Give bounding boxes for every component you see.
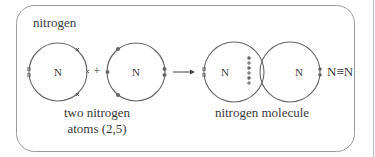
plus-sign: +: [94, 64, 101, 78]
diagram-title: nitrogen: [33, 15, 77, 30]
atom-symbol: N: [132, 66, 140, 78]
structural-formula: N≡N: [327, 64, 354, 79]
right-shell: [260, 42, 320, 102]
nitrogen-molecule: N N: [202, 42, 322, 102]
atoms-caption-line2: atoms (2,5): [67, 121, 126, 136]
atom-symbol: N: [54, 66, 62, 78]
shared-electrons: [247, 56, 251, 85]
molecule-caption: nitrogen molecule: [215, 105, 309, 120]
left-atom-symbol: N: [221, 66, 229, 78]
nitrogen-atom-right: N: [106, 43, 167, 101]
right-atom-symbol: N: [295, 66, 303, 78]
atoms-caption-line1: two nitrogen: [64, 105, 131, 120]
nitrogen-atom-left: N: [27, 43, 89, 101]
nitrogen-bonding-diagram: nitrogen N + N N N: [0, 0, 375, 157]
reaction-arrow: [173, 70, 195, 75]
left-shell: [204, 42, 264, 102]
